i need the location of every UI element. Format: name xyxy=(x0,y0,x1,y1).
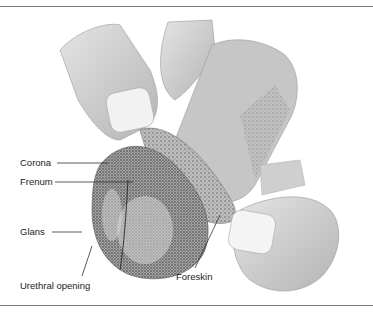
label-frenum: Frenum xyxy=(20,176,53,187)
label-urethral-opening: Urethral opening xyxy=(20,280,90,291)
urethral-opening-leader-line xyxy=(82,246,92,276)
label-corona: Corona xyxy=(20,157,51,168)
anatomical-illustration xyxy=(0,0,373,314)
finger-top-left xyxy=(60,24,158,140)
label-glans: Glans xyxy=(20,226,45,237)
label-foreskin: Foreskin xyxy=(176,271,212,282)
